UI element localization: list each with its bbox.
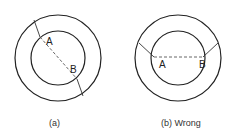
figure-b: A B (b) Wrong [135, 15, 221, 128]
caption-a: (a) [49, 118, 60, 128]
point-b-label-a: B [70, 64, 77, 75]
concentric-circles-diagram: A B (a) A B (b) Wrong [0, 0, 235, 134]
inner-circle-b [151, 31, 205, 85]
caption-b: (b) Wrong [161, 118, 201, 128]
figure-a: A B (a) [15, 15, 101, 128]
solid-segment-a-bottom [77, 79, 83, 96]
solid-segment-b-right [203, 43, 218, 57]
point-a-label-a: A [46, 36, 53, 47]
outer-circle-b [135, 15, 221, 101]
point-a-label-b: A [159, 59, 166, 70]
point-b-label-b: B [199, 59, 206, 70]
solid-segment-a-top [34, 20, 40, 37]
